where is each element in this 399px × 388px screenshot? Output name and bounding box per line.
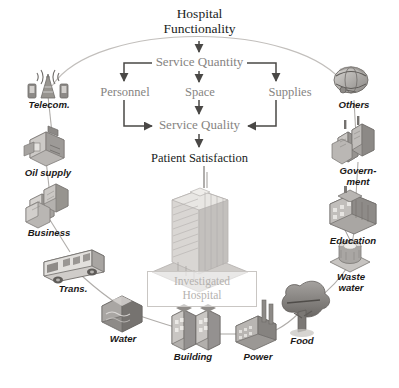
- globe-others-icon[interactable]: [334, 67, 368, 93]
- label-trans-text: Trans.: [42, 284, 104, 295]
- school-icon[interactable]: [330, 186, 376, 234]
- label-business: Business: [14, 228, 84, 239]
- node-service-quality: Service Quality: [0, 118, 399, 133]
- page-title: Hospital Functionality: [0, 6, 399, 36]
- label-government-line-2: ment: [330, 177, 386, 188]
- label-business-text: Business: [14, 228, 84, 239]
- label-education-text: Education: [322, 236, 384, 247]
- label-building-text: Building: [160, 352, 226, 363]
- power-plant-icon[interactable]: [236, 300, 276, 350]
- node-patient-satisfaction: Patient Satisfaction: [0, 151, 399, 165]
- label-water-text: Water: [95, 334, 151, 345]
- label-power-text: Power: [228, 352, 288, 363]
- label-power: Power: [228, 352, 288, 363]
- investigated-hospital-box: Investigated Hospital: [147, 271, 257, 307]
- investigated-hospital-line-1: Investigated: [148, 274, 256, 288]
- label-water: Water: [95, 334, 151, 345]
- telecom-tower-icon[interactable]: [28, 70, 68, 98]
- title-line-2: Functionality: [0, 21, 399, 36]
- bus-icon[interactable]: [44, 250, 104, 283]
- label-trans: Trans.: [42, 284, 104, 295]
- label-telecom-line-1: Telecom.: [18, 100, 80, 111]
- label-telecom: Telecom.: [18, 100, 80, 111]
- label-waste-water-line-2: water: [326, 283, 376, 294]
- node-supplies: Supplies: [245, 85, 335, 99]
- water-reservoir-icon[interactable]: [102, 296, 142, 332]
- label-food: Food: [276, 336, 328, 347]
- building-icon[interactable]: [172, 304, 220, 350]
- tree-food-icon[interactable]: [282, 281, 329, 337]
- label-education: Education: [322, 236, 384, 247]
- label-oil-supply-text: Oil supply: [12, 168, 84, 179]
- node-space: Space: [165, 85, 235, 99]
- title-line-1: Hospital: [0, 6, 399, 21]
- label-building: Building: [160, 352, 226, 363]
- node-personnel: Personnel: [80, 85, 170, 99]
- figure-canvas: Hospital Functionality Service Quantity …: [0, 0, 399, 388]
- label-food-text: Food: [276, 336, 328, 347]
- label-others: Others: [326, 100, 382, 111]
- node-service-quantity: Service Quantity: [0, 55, 399, 70]
- label-others-text: Others: [326, 100, 382, 111]
- business-buildings-icon[interactable]: [26, 184, 68, 228]
- label-government: Govern- ment: [330, 166, 386, 187]
- label-waste-water: Waste water: [326, 272, 376, 293]
- investigated-hospital-line-2: Hospital: [148, 288, 256, 302]
- label-oil-supply: Oil supply: [12, 168, 84, 179]
